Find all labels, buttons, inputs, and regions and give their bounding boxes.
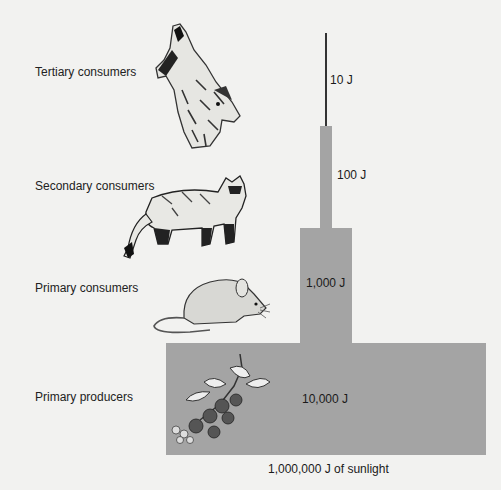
energy-primary-consumers: 1,000 J: [306, 276, 345, 290]
energy-primary-producers: 10,000 J: [302, 392, 348, 406]
bar-secondary: [320, 126, 332, 229]
energy-tertiary: 10 J: [330, 73, 353, 87]
sunlight-label: 1,000,000 J of sunlight: [268, 462, 389, 476]
label-primary-consumers: Primary consumers: [35, 281, 138, 295]
ferret-icon: [122, 168, 262, 260]
label-primary-producers: Primary producers: [35, 390, 133, 404]
mouse-icon: [150, 270, 270, 336]
label-tertiary-consumers: Tertiary consumers: [35, 65, 136, 79]
wolf-icon: [148, 20, 250, 150]
blackberry-plant-icon: [170, 352, 274, 448]
energy-secondary: 100 J: [337, 168, 366, 182]
bar-tertiary: [325, 33, 327, 127]
